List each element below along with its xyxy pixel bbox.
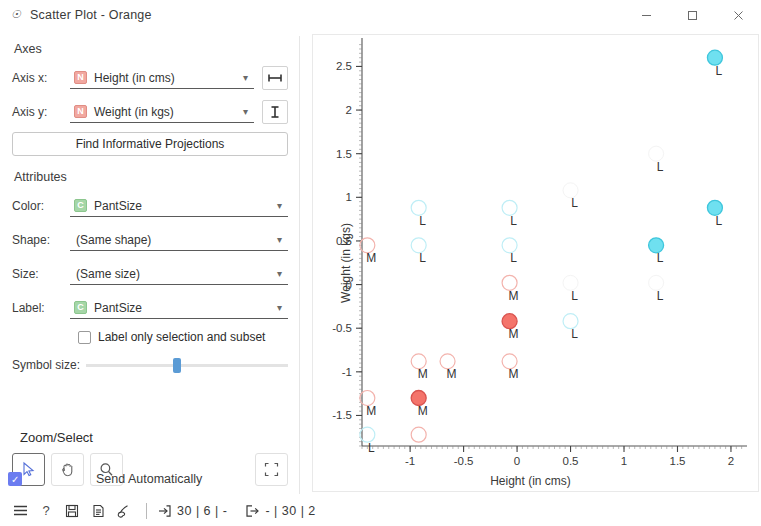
axis-y-combobox[interactable]: N Weight (in kgs) ▾: [70, 101, 254, 123]
label-label: Label:: [12, 301, 70, 315]
point-label: L: [657, 289, 664, 303]
point-label: L: [657, 251, 664, 265]
axis-y-label: Axis y:: [12, 105, 70, 119]
brush-icon[interactable]: [112, 499, 136, 523]
axes-section-title: Axes: [14, 42, 288, 56]
axis-x-label: Axis x:: [12, 71, 70, 85]
categorical-variable-icon: C: [74, 301, 87, 314]
label-value: PantSize: [92, 301, 272, 315]
y-tick-label: 0.5: [336, 235, 352, 247]
symbol-size-slider[interactable]: [86, 364, 288, 367]
color-row: Color: C PantSize ▾: [12, 192, 288, 220]
y-tick-label: 1: [346, 191, 352, 203]
point-label: M: [418, 404, 428, 418]
axis-y-row: Axis y: N Weight (in kgs) ▾: [12, 98, 288, 126]
main-area: Axes Axis x: N Height (in cms) ▾ Axis y:…: [0, 30, 761, 496]
x-tick-label: -0.5: [454, 455, 474, 467]
chevron-down-icon: ▾: [272, 302, 286, 313]
x-tick-label: 1.5: [669, 455, 685, 467]
label-combobox[interactable]: C PantSize ▾: [70, 297, 288, 319]
output-arrow-icon: [245, 504, 260, 518]
help-icon[interactable]: ?: [34, 499, 58, 523]
maximize-button[interactable]: [669, 0, 715, 30]
x-tick-label: -1: [405, 455, 415, 467]
window-titlebar: ☉ Scatter Plot - Orange: [0, 0, 761, 30]
point-label: M: [366, 251, 376, 265]
color-value: PantSize: [92, 199, 272, 213]
axis-x-row: Axis x: N Height (in cms) ▾: [12, 64, 288, 92]
y-tick-label: 2.5: [336, 60, 352, 72]
input-summary[interactable]: 30 | 6 | -: [157, 504, 227, 518]
y-axis-scale-button[interactable]: [262, 100, 288, 124]
chevron-down-icon: ▾: [272, 200, 286, 211]
chevron-down-icon: ▾: [238, 72, 252, 83]
send-automatically-checkbox[interactable]: ✓: [8, 472, 22, 486]
y-tick-label: 1.5: [336, 148, 352, 160]
report-icon[interactable]: [86, 499, 110, 523]
point-label: L: [510, 251, 517, 265]
symbol-size-label: Symbol size:: [12, 358, 86, 372]
shape-row: Shape: (Same shape) ▾: [12, 226, 288, 254]
attributes-section-title: Attributes: [14, 170, 288, 184]
x-tick-label: 1: [621, 455, 627, 467]
menu-icon[interactable]: [8, 499, 32, 523]
label-only-selection-checkbox[interactable]: [78, 331, 91, 344]
point-label: M: [418, 367, 428, 381]
point-label: M: [509, 289, 519, 303]
send-automatically-row[interactable]: ✓ Send Automatically: [0, 466, 300, 492]
point-label: L: [716, 214, 723, 228]
y-tick-label: 2: [346, 104, 352, 116]
save-icon[interactable]: [60, 499, 84, 523]
size-value: (Same size): [74, 267, 272, 281]
chevron-down-icon: ▾: [272, 268, 286, 279]
axis-y-value: Weight (in kgs): [92, 105, 238, 119]
input-count-text: 30 | 6 | -: [177, 504, 227, 518]
chevron-down-icon: ▾: [238, 106, 252, 117]
y-tick-label: 0: [346, 279, 352, 291]
y-tick-label: -1: [342, 366, 352, 378]
categorical-variable-icon: C: [74, 199, 87, 212]
control-panel: Axes Axis x: N Height (in cms) ▾ Axis y:…: [0, 30, 300, 496]
size-label: Size:: [12, 267, 70, 281]
point-label: L: [571, 327, 578, 341]
size-row: Size: (Same size) ▾: [12, 260, 288, 288]
shape-combobox[interactable]: (Same shape) ▾: [70, 229, 288, 251]
point-label: M: [509, 367, 519, 381]
x-tick-label: 0: [514, 455, 520, 467]
point-label: L: [419, 251, 426, 265]
point-label: L: [368, 441, 375, 455]
label-only-selection-row[interactable]: Label only selection and subset: [78, 330, 288, 344]
find-informative-projections-button[interactable]: Find Informative Projections: [12, 132, 288, 156]
color-combobox[interactable]: C PantSize ▾: [70, 195, 288, 217]
scatter-plot-area[interactable]: Weight (in kgs) Height (in cms) -1-0.500…: [300, 30, 761, 496]
output-summary[interactable]: - | 30 | 2: [245, 504, 315, 518]
send-automatically-label: Send Automatically: [96, 472, 202, 486]
chevron-down-icon: ▾: [272, 234, 286, 245]
close-button[interactable]: [715, 0, 761, 30]
point-label: L: [510, 214, 517, 228]
axis-x-combobox[interactable]: N Height (in cms) ▾: [70, 67, 254, 89]
point-label: M: [366, 404, 376, 418]
minimize-button[interactable]: [623, 0, 669, 30]
input-arrow-icon: [157, 504, 172, 518]
symbol-size-slider-handle[interactable]: [173, 358, 181, 373]
shape-label: Shape:: [12, 233, 70, 247]
label-only-selection-label: Label only selection and subset: [98, 330, 265, 344]
symbol-size-row: Symbol size:: [12, 358, 288, 372]
point-label: L: [571, 289, 578, 303]
window-controls: [623, 0, 761, 30]
size-combobox[interactable]: (Same size) ▾: [70, 263, 288, 285]
point-label: L: [716, 64, 723, 78]
point-label: L: [419, 214, 426, 228]
x-tick-label: 0.5: [563, 455, 579, 467]
y-tick-label: -1.5: [332, 409, 352, 421]
x-axis-scale-button[interactable]: [262, 66, 288, 90]
y-tick-label: -0.5: [332, 322, 352, 334]
scatter-point[interactable]: [411, 427, 426, 442]
point-label: L: [657, 160, 664, 174]
x-tick-label: 2: [728, 455, 734, 467]
label-row: Label: C PantSize ▾: [12, 294, 288, 322]
point-label: M: [447, 367, 457, 381]
shape-value: (Same shape): [74, 233, 272, 247]
numeric-variable-icon: N: [74, 71, 87, 84]
